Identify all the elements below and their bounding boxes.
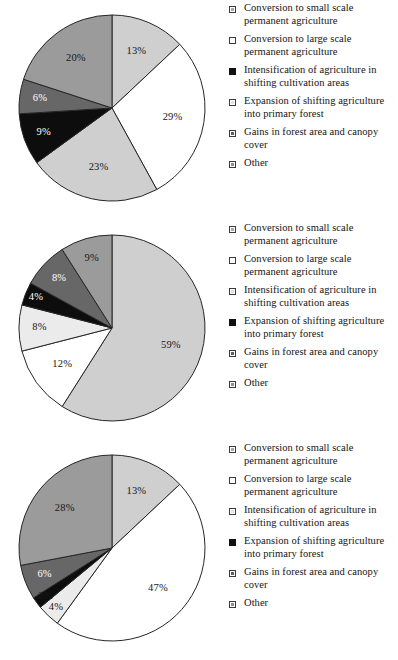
pie-slice-label: 59%	[161, 339, 181, 350]
pie-chart-container: 59%12%8%4%8%9%	[12, 225, 212, 435]
pie-slice-label: 20%	[66, 52, 86, 63]
legend-item[interactable]: Conversion to small scale permanent agri…	[229, 2, 397, 28]
pie-chart-svg: 59%12%8%4%8%9%	[12, 225, 212, 435]
legend-swatch-icon	[229, 319, 236, 326]
legend-item[interactable]: Expansion of shifting agriculture into p…	[229, 315, 397, 341]
pie-slice-label: 9%	[85, 252, 99, 263]
legend-item-label: Conversion to small scale permanent agri…	[244, 222, 396, 247]
legend-item-label: Conversion to large scale permanent agri…	[244, 33, 396, 58]
legend-item[interactable]: Expansion of shifting agriculture into p…	[229, 535, 397, 561]
legend-swatch-icon	[229, 446, 236, 453]
legend: Conversion to small scale permanent agri…	[229, 2, 397, 188]
pie-slice-label: 12%	[52, 358, 72, 369]
legend-item-label: Conversion to small scale permanent agri…	[244, 442, 396, 467]
pie-slice-label: 2%	[39, 590, 53, 601]
legend-item-label: Gains in forest area and canopy cover	[244, 126, 396, 151]
pie-chart-container: 13%47%4%2%6%28%	[12, 445, 212, 655]
pie-slice-label: 29%	[163, 111, 183, 122]
legend-item-label: Expansion of shifting agriculture into p…	[244, 95, 396, 120]
legend-swatch-icon	[229, 257, 236, 264]
legend-item[interactable]: Conversion to small scale permanent agri…	[229, 442, 397, 468]
pie-slice-label: 8%	[32, 321, 46, 332]
legend-swatch-icon	[229, 381, 236, 388]
pie-slice-label: 9%	[36, 126, 50, 137]
legend-swatch-icon	[229, 539, 236, 546]
pie-chart-svg: 13%29%23%9%6%20%	[12, 5, 212, 215]
legend-item[interactable]: Gains in forest area and canopy cover	[229, 566, 397, 592]
legend-item[interactable]: Intensification of agriculture in shifti…	[229, 64, 397, 90]
legend-item[interactable]: Other	[229, 597, 397, 623]
legend: Conversion to small scale permanent agri…	[229, 442, 397, 628]
legend-item[interactable]: Conversion to large scale permanent agri…	[229, 253, 397, 279]
legend-swatch-icon	[229, 130, 236, 137]
legend-item[interactable]: Conversion to large scale permanent agri…	[229, 473, 397, 499]
pie-slice-label: 13%	[126, 45, 146, 56]
pie-slice-label: 4%	[49, 601, 63, 612]
legend-item[interactable]: Conversion to small scale permanent agri…	[229, 222, 397, 248]
legend-swatch-icon	[229, 161, 236, 168]
legend-swatch-icon	[229, 37, 236, 44]
legend-item-label: Gains in forest area and canopy cover	[244, 346, 396, 371]
pie-chart-container: 13%29%23%9%6%20%	[12, 5, 212, 215]
legend-item-label: Other	[244, 157, 268, 170]
legend-swatch-icon	[229, 350, 236, 357]
pie-slice-label: 8%	[52, 272, 66, 283]
chart-panel: 13%29%23%9%6%20% Conversion to small sca…	[0, 0, 398, 220]
pie-slice-label: 47%	[148, 582, 168, 593]
legend-item-label: Conversion to large scale permanent agri…	[244, 473, 396, 498]
legend-swatch-icon	[229, 99, 236, 106]
legend: Conversion to small scale permanent agri…	[229, 222, 397, 408]
legend-swatch-icon	[229, 508, 236, 515]
pie-slice-label: 13%	[126, 485, 146, 496]
legend-item[interactable]: Intensification of agriculture in shifti…	[229, 504, 397, 530]
legend-item[interactable]: Other	[229, 157, 397, 183]
legend-item-label: Conversion to small scale permanent agri…	[244, 2, 396, 27]
legend-item-label: Other	[244, 377, 268, 390]
pie-chart-svg: 13%47%4%2%6%28%	[12, 445, 212, 655]
legend-item[interactable]: Gains in forest area and canopy cover	[229, 346, 397, 372]
legend-item-label: Expansion of shifting agriculture into p…	[244, 535, 396, 560]
pie-slice-label: 23%	[89, 161, 109, 172]
legend-item[interactable]: Gains in forest area and canopy cover	[229, 126, 397, 152]
pie-chart-figure: 13%29%23%9%6%20% Conversion to small sca…	[0, 0, 398, 660]
legend-swatch-icon	[229, 570, 236, 577]
legend-item-label: Gains in forest area and canopy cover	[244, 566, 396, 591]
legend-swatch-icon	[229, 226, 236, 233]
legend-item-label: Intensification of agriculture in shifti…	[244, 284, 396, 309]
legend-item-label: Intensification of agriculture in shifti…	[244, 64, 396, 89]
pie-slice-label: 4%	[29, 291, 43, 302]
chart-panel: 13%47%4%2%6%28% Conversion to small scal…	[0, 440, 398, 660]
chart-panel: 59%12%8%4%8%9% Conversion to small scale…	[0, 220, 398, 440]
pie-slice-label: 28%	[55, 502, 75, 513]
legend-item[interactable]: Intensification of agriculture in shifti…	[229, 284, 397, 310]
legend-swatch-icon	[229, 288, 236, 295]
legend-item-label: Expansion of shifting agriculture into p…	[244, 315, 396, 340]
legend-swatch-icon	[229, 6, 236, 13]
legend-swatch-icon	[229, 477, 236, 484]
pie-slice-label: 6%	[37, 568, 51, 579]
legend-item-label: Other	[244, 597, 268, 610]
pie-slice-label: 6%	[33, 92, 47, 103]
legend-item[interactable]: Conversion to large scale permanent agri…	[229, 33, 397, 59]
legend-item-label: Intensification of agriculture in shifti…	[244, 504, 396, 529]
legend-item[interactable]: Expansion of shifting agriculture into p…	[229, 95, 397, 121]
legend-swatch-icon	[229, 68, 236, 75]
legend-item[interactable]: Other	[229, 377, 397, 403]
legend-swatch-icon	[229, 601, 236, 608]
legend-item-label: Conversion to large scale permanent agri…	[244, 253, 396, 278]
